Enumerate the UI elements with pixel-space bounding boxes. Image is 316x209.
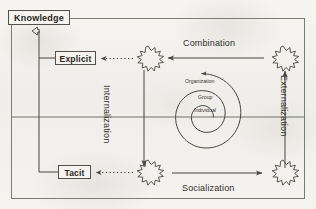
- label-organization: Organization: [185, 78, 214, 84]
- label-group: Group: [198, 94, 212, 100]
- diagram-canvas: Knowledge Explicit Tacit Combination Soc…: [0, 0, 316, 209]
- starburst-combination-source: [272, 46, 298, 71]
- label-externalization: Externalization: [279, 75, 289, 136]
- diagram-vector-layer: [0, 0, 316, 209]
- starburst-socialization-target: [272, 160, 298, 185]
- node-tacit[interactable]: Tacit: [58, 165, 91, 179]
- node-knowledge[interactable]: Knowledge: [8, 10, 70, 25]
- label-combination: Combination: [183, 38, 235, 48]
- node-explicit[interactable]: Explicit: [55, 51, 96, 65]
- label-individual: Individual: [194, 107, 216, 113]
- label-internalization: Internalization: [102, 85, 112, 143]
- starburst-tacit: [137, 160, 163, 185]
- starburst-explicit: [137, 46, 163, 71]
- label-socialization: Socialization: [182, 183, 234, 193]
